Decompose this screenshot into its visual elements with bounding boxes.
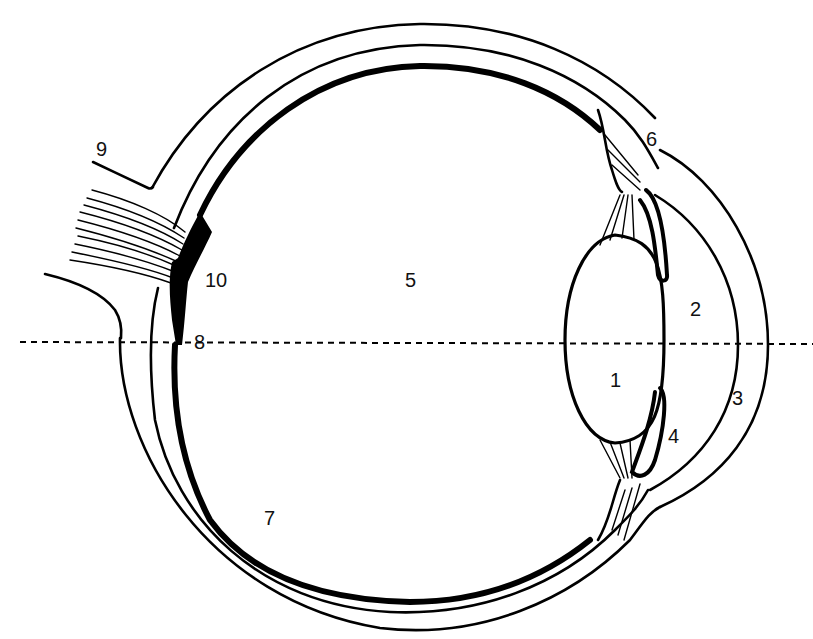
label-5-vitreous-body: 5 xyxy=(405,269,416,291)
eye-cross-section-diagram: 1 2 3 4 5 6 7 8 9 10 xyxy=(0,0,813,639)
label-8-fovea: 8 xyxy=(194,331,205,353)
label-10-optic-disc: 10 xyxy=(205,269,227,291)
label-9-optic-nerve: 9 xyxy=(96,138,107,160)
label-7-retina: 7 xyxy=(264,507,275,529)
label-1-lens: 1 xyxy=(610,369,621,391)
label-2-anterior-chamber: 2 xyxy=(690,298,701,320)
label-3-cornea: 3 xyxy=(732,387,743,409)
label-6-ciliary-body: 6 xyxy=(646,128,657,150)
label-4-iris: 4 xyxy=(668,425,679,447)
